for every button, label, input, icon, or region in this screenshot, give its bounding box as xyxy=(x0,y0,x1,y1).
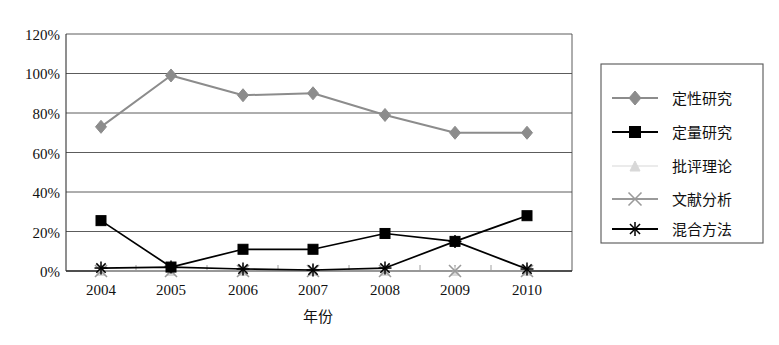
x-tick-label-2010: 2010 xyxy=(512,282,542,298)
marker-square xyxy=(238,244,248,254)
marker-square xyxy=(96,216,106,226)
legend-label-3: 文献分析 xyxy=(672,191,732,209)
marker-square xyxy=(308,244,318,254)
marker-asterisk xyxy=(307,264,320,277)
legend-label-1: 定量研究 xyxy=(672,124,732,142)
x-tick-label-2005: 2005 xyxy=(156,282,186,298)
x-tick-label-2004: 2004 xyxy=(86,282,117,298)
chart-container: 0% 20% 40% 60% 80% 100% 120% 2004 2005 2… xyxy=(0,0,779,345)
y-tick-label-40: 40% xyxy=(33,185,61,201)
legend-label-0: 定性研究 xyxy=(672,90,732,108)
marker-asterisk xyxy=(237,263,250,276)
y-tick-label-60: 60% xyxy=(33,146,61,162)
marker-square xyxy=(630,127,641,138)
marker-asterisk xyxy=(521,263,534,276)
x-axis-title: 年份 xyxy=(303,308,333,326)
x-tick-label-2006: 2006 xyxy=(228,282,259,298)
x-tick-label-2009: 2009 xyxy=(440,282,470,298)
legend-label-2: 批评理论 xyxy=(672,158,732,176)
y-tick-label-0: 0% xyxy=(40,264,60,280)
marker-square xyxy=(522,211,532,221)
marker-asterisk xyxy=(379,262,392,275)
marker-asterisk xyxy=(628,222,642,236)
marker-asterisk xyxy=(95,262,108,275)
marker-asterisk xyxy=(449,235,462,248)
marker-asterisk xyxy=(165,261,178,274)
y-tick-label-120: 120% xyxy=(25,27,60,43)
y-tick-label-80: 80% xyxy=(33,106,61,122)
x-tick-label-2007: 2007 xyxy=(298,282,329,298)
legend-label-4: 混合方法 xyxy=(672,221,732,239)
legend-box: 定性研究定量研究批评理论文献分析混合方法 xyxy=(601,64,763,243)
x-tick-label-2008: 2008 xyxy=(370,282,400,298)
y-tick-label-100: 100% xyxy=(25,66,60,82)
y-tick-label-20: 20% xyxy=(33,225,61,241)
marker-square xyxy=(380,228,390,238)
chart-svg: 0% 20% 40% 60% 80% 100% 120% 2004 2005 2… xyxy=(0,0,779,345)
